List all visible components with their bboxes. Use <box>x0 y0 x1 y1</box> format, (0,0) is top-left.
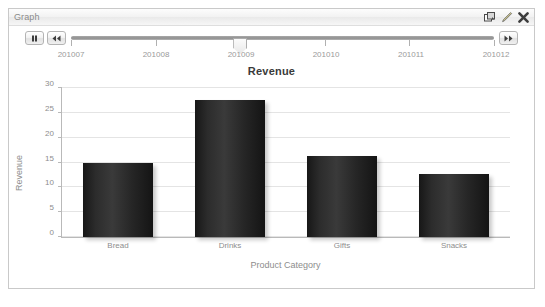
timeline-tick <box>409 40 410 46</box>
timeline-tick <box>71 40 72 46</box>
timeline-slider-row <box>9 28 534 50</box>
y-tick-mark <box>58 112 62 113</box>
bar[interactable] <box>419 174 488 237</box>
timeline-tick <box>156 40 157 46</box>
bar[interactable] <box>195 100 264 237</box>
y-tick-label: 20 <box>45 128 54 137</box>
timeline-scale: 201007201008201009201010201011201012 <box>9 50 534 62</box>
gridline <box>62 137 510 138</box>
plot-area: 051015202530BreadDrinksGiftsSnacks <box>61 88 510 238</box>
x-axis-title: Product Category <box>61 260 510 270</box>
chart-title: Revenue <box>9 65 534 77</box>
timeline-tick-label: 201008 <box>143 50 170 59</box>
panel-titlebar: Graph <box>9 9 534 26</box>
y-tick-label: 10 <box>45 178 54 187</box>
y-tick-mark <box>58 87 62 88</box>
y-axis-title: Revenue <box>14 155 24 191</box>
y-tick-mark <box>58 211 62 212</box>
timeline-tick-label: 201012 <box>483 50 510 59</box>
timeline-tick-label: 201010 <box>313 50 340 59</box>
timeline-tick-label: 201011 <box>398 50 424 59</box>
y-tick-label: 15 <box>45 153 54 162</box>
timeline-track[interactable] <box>71 36 494 40</box>
bar[interactable] <box>83 163 152 238</box>
y-tick-label: 5 <box>50 203 54 212</box>
bar[interactable] <box>307 156 376 237</box>
forward-button[interactable] <box>499 31 518 45</box>
x-tick-label: Drinks <box>219 241 242 250</box>
x-tick-label: Bread <box>107 241 128 250</box>
y-tick-mark <box>58 137 62 138</box>
rewind-button[interactable] <box>47 31 66 45</box>
pause-button[interactable] <box>25 31 44 45</box>
y-tick-label: 0 <box>50 228 54 237</box>
gridline <box>62 112 510 113</box>
graph-panel: Graph 2010072010082010092010102010112010… <box>8 8 535 289</box>
timeline-tick <box>325 40 326 46</box>
close-icon[interactable] <box>517 10 530 23</box>
y-tick-mark <box>58 162 62 163</box>
y-tick-mark <box>58 236 62 237</box>
edit-pencil-icon[interactable] <box>500 10 513 23</box>
y-tick-label: 30 <box>45 79 54 88</box>
panel-title: Graph <box>14 12 40 23</box>
gridline <box>62 87 510 88</box>
panel-titlebar-actions <box>483 10 530 23</box>
timeline-tick-label: 201009 <box>228 50 255 59</box>
timeline-tick <box>494 40 495 46</box>
y-tick-mark <box>58 186 62 187</box>
x-tick-label: Gifts <box>334 241 350 250</box>
revenue-chart: Revenue Revenue 051015202530BreadDrinksG… <box>9 62 534 284</box>
duplicate-icon[interactable] <box>483 10 496 23</box>
y-tick-label: 25 <box>45 103 54 112</box>
timeline-tick-label: 201007 <box>58 50 85 59</box>
x-tick-label: Snacks <box>441 241 467 250</box>
